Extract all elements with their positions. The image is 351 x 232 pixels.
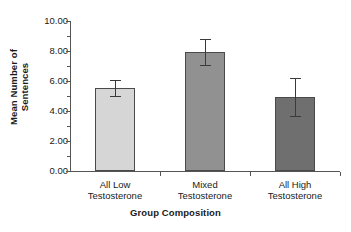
x-category-label-line: All Low — [70, 179, 160, 190]
error-bar-cap-3-upper — [290, 78, 301, 79]
x-axis-tick — [160, 172, 161, 176]
y-axis-line — [70, 21, 71, 172]
y-axis-major-tick — [66, 141, 70, 142]
y-axis-title-line-2: Sentences — [19, 22, 30, 152]
y-axis-minor-tick — [67, 126, 70, 127]
y-axis-major-tick — [66, 81, 70, 82]
y-tick-label: 8.00 — [30, 46, 68, 56]
y-axis-minor-tick — [67, 156, 70, 157]
x-category-label-1: All LowTestosterone — [70, 179, 160, 201]
y-axis-tick-labels: 0.002.004.006.008.0010.00 — [30, 0, 68, 232]
error-bar-cap-2-lower — [200, 65, 211, 66]
x-category-label-line: Mixed — [160, 179, 250, 190]
y-tick-label: 2.00 — [30, 136, 68, 146]
error-bar-cap-1-upper — [110, 80, 121, 81]
x-category-label-line: Testosterone — [250, 190, 340, 201]
error-bar-cap-1-lower — [110, 96, 121, 97]
error-bar-cap-3-lower — [290, 116, 301, 117]
y-axis-major-tick — [66, 111, 70, 112]
x-category-label-2: MixedTestosterone — [160, 179, 250, 201]
x-axis-line — [70, 171, 340, 172]
x-axis-tick — [250, 172, 251, 176]
bar-chart: Mean Number of Sentences 0.002.004.006.0… — [0, 0, 351, 232]
error-bar-stem-1 — [115, 80, 116, 97]
error-bar-stem-2 — [205, 39, 206, 65]
y-tick-label: 10.00 — [30, 16, 68, 26]
y-axis-major-tick — [66, 171, 70, 172]
x-category-label-line: All High — [250, 179, 340, 190]
y-axis-title-line-1: Mean Number of — [8, 22, 19, 152]
y-axis-minor-tick — [67, 96, 70, 97]
x-category-label-3: All HighTestosterone — [250, 179, 340, 201]
x-axis-end-tick — [340, 172, 341, 176]
x-category-label-line: Testosterone — [70, 190, 160, 201]
y-tick-label: 4.00 — [30, 106, 68, 116]
x-category-label-line: Testosterone — [160, 190, 250, 201]
error-bar-cap-2-upper — [200, 39, 211, 40]
error-bar-stem-3 — [295, 78, 296, 116]
y-axis-minor-tick — [67, 66, 70, 67]
y-tick-label: 6.00 — [30, 76, 68, 86]
y-axis-major-tick — [66, 51, 70, 52]
x-axis-title: Group Composition — [0, 207, 351, 218]
y-tick-label: 0.00 — [30, 166, 68, 176]
y-axis-major-tick — [66, 21, 70, 22]
bar-2 — [185, 52, 225, 171]
bar-1 — [95, 88, 135, 171]
y-axis-minor-tick — [67, 36, 70, 37]
